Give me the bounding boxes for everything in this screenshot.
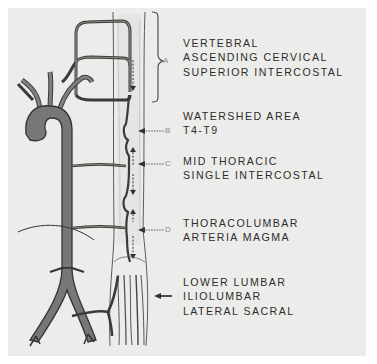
label-line: LATERAL SACRAL [183, 304, 295, 318]
label-line: MID THORACIC [183, 154, 324, 168]
label-region-lower-lumbar: LOWER LUMBAR ILIOLUMBAR LATERAL SACRAL [183, 275, 295, 318]
label-line: SUPERIOR INTERCOSTAL [183, 65, 344, 79]
label-region-d: THORACOLUMBAR ARTERIA MAGMA [183, 216, 299, 245]
marker-d: D [165, 225, 171, 234]
marker-c: C [165, 159, 171, 168]
marker-b: B [165, 126, 170, 135]
label-line: WATERSHED AREA [183, 109, 301, 123]
aorta [18, 72, 96, 346]
pointer-arrows [143, 131, 164, 230]
marker-a: A [163, 56, 168, 65]
label-region-c: MID THORACIC SINGLE INTERCOSTAL [183, 154, 324, 183]
label-line: ILIOLUMBAR [183, 289, 295, 303]
label-line: T4-T9 [183, 123, 301, 137]
label-line: LOWER LUMBAR [183, 275, 295, 289]
label-line: SINGLE INTERCOSTAL [183, 168, 324, 182]
label-region-b: WATERSHED AREA T4-T9 [183, 109, 301, 138]
label-region-a: VERTEBRAL ASCENDING CERVICAL SUPERIOR IN… [183, 36, 344, 79]
bracket-a [152, 12, 163, 102]
label-line: ARTERIA MAGMA [183, 230, 299, 244]
label-line: VERTEBRAL [183, 36, 344, 50]
label-line: ASCENDING CERVICAL [183, 50, 344, 64]
label-line: THORACOLUMBAR [183, 216, 299, 230]
